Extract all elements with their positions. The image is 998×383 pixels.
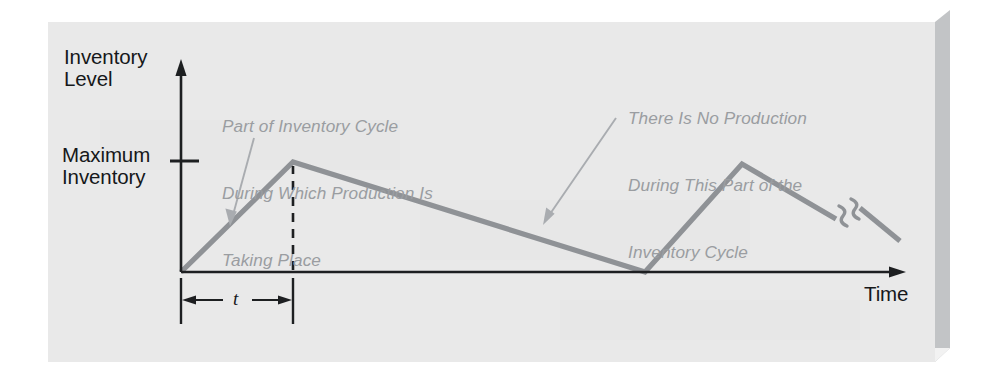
- y-axis-tick-label-line2: Inventory: [62, 166, 145, 189]
- y-axis-label-line1: Inventory: [64, 46, 147, 69]
- annotation-no-production-line2: During This Part of the: [628, 174, 807, 196]
- annotation-production-line3: Taking Place: [222, 249, 433, 271]
- x-axis-label: Time: [864, 283, 908, 306]
- inventory-cycle-diagram: [0, 0, 998, 383]
- annotation-no-production-line1: There Is No Production: [628, 107, 807, 129]
- y-axis-tick-label-line1: Maximum: [62, 144, 150, 167]
- annotation-production-phase: Part of Inventory Cycle During Which Pro…: [222, 70, 433, 294]
- annotation-no-production-line3: Inventory Cycle: [628, 241, 807, 263]
- y-axis-label-line2: Level: [64, 68, 113, 91]
- annotation-production-line2: During Which Production Is: [222, 182, 433, 204]
- annotation-production-line1: Part of Inventory Cycle: [222, 115, 433, 137]
- panel-right-face: [935, 10, 950, 362]
- figure-canvas: [0, 0, 998, 383]
- annotation-no-production-phase: There Is No Production During This Part …: [628, 62, 807, 286]
